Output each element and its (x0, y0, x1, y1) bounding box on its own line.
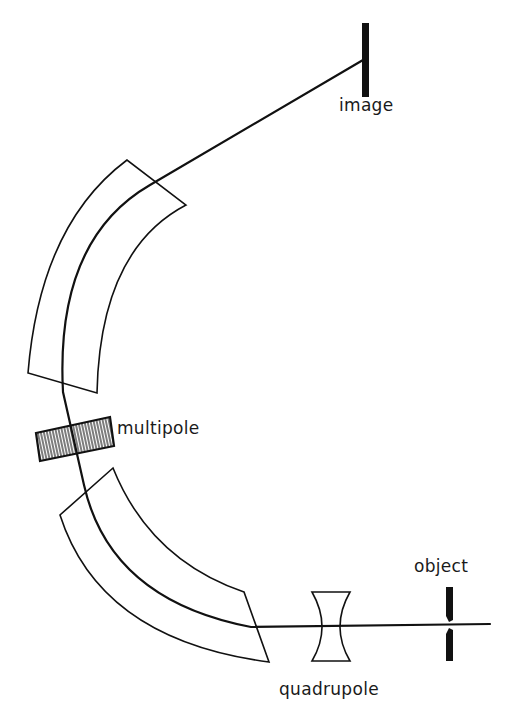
label-quadrupole: quadrupole (279, 681, 379, 698)
upper-sector-magnet (28, 160, 186, 393)
lower-sector-magnet (60, 468, 269, 662)
image-plane-bar (362, 23, 369, 97)
beam-path (62, 60, 490, 627)
beam-diagram (0, 0, 512, 717)
object-slit-upper (446, 587, 453, 622)
object-slit-lower (446, 628, 453, 661)
label-multipole: multipole (117, 420, 200, 437)
label-image: image (339, 97, 393, 114)
label-object: object (414, 558, 468, 575)
multipole-element (36, 417, 114, 461)
